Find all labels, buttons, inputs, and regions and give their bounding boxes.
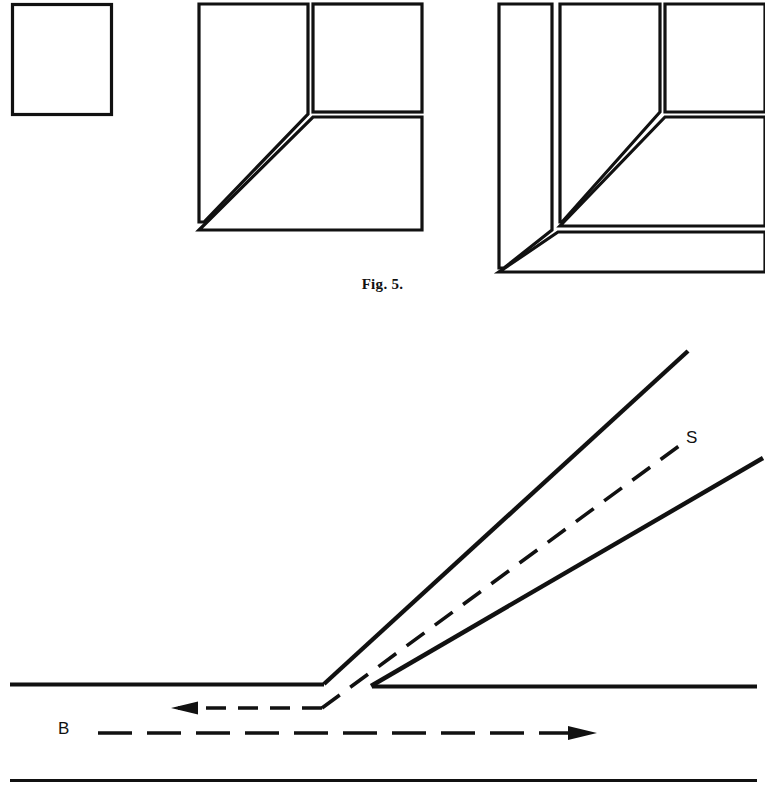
label-s: S <box>686 429 697 446</box>
panel1-square <box>13 5 112 115</box>
panel3-inner-vertical-member <box>560 4 660 222</box>
fig6-diagram <box>0 330 765 802</box>
panel3-inner-horizontal-member <box>560 117 765 226</box>
left-arrow-dashed <box>171 702 322 715</box>
fig5-caption: Fig. 5. <box>0 276 765 293</box>
panel3-outer-horizontal-member <box>499 232 765 272</box>
panel2-corner-square <box>313 4 422 112</box>
panel3-corner-square <box>665 4 765 112</box>
lower-branch-line <box>371 458 763 686</box>
upper-branch-line <box>324 351 688 684</box>
right-arrow-dashed <box>98 726 597 740</box>
label-b: B <box>58 720 69 737</box>
panel3-outer-vertical-member <box>499 4 552 268</box>
figure-page: Fig. 5. S B <box>0 0 765 802</box>
fig5-diagram <box>0 0 765 275</box>
slip-line-s <box>322 446 679 708</box>
panel2-horizontal-member <box>199 117 422 230</box>
panel2-vertical-member <box>199 4 308 222</box>
